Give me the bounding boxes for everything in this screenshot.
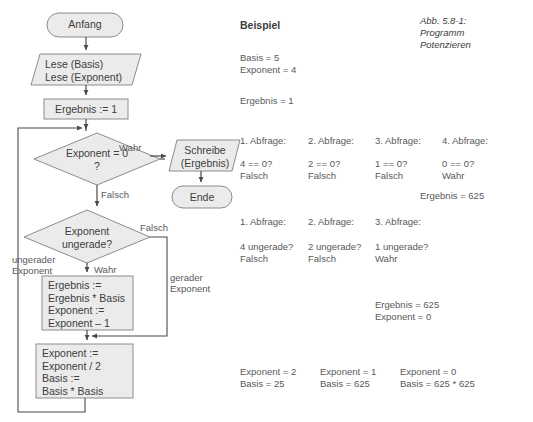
odd-query-test-3: 1 ungerade? Wahr xyxy=(375,241,428,265)
edge-label-odd-false: Falsch xyxy=(140,222,168,233)
zero-query-test-3: 1 == 0? Falsch xyxy=(375,158,407,182)
edge-label-even-branch: gerader Exponent xyxy=(170,272,210,294)
node-end-shape xyxy=(172,186,232,208)
example-mid-state: Ergebnis = 625 Exponent = 0 xyxy=(375,299,439,323)
zero-query-result: Ergebnis = 625 xyxy=(420,190,484,202)
example-final-state-1: Exponent = 2 Basis = 25 xyxy=(240,366,296,390)
example-initial-values: Basis = 5 Exponent = 4 xyxy=(240,52,296,76)
example-heading: Beispiel xyxy=(240,19,280,31)
node-write-shape xyxy=(169,140,240,171)
figure-caption: Abb. 5.8-1: Programm Potenzieren xyxy=(420,15,471,51)
node-halve-shape xyxy=(36,344,133,398)
node-read-shape xyxy=(31,54,141,85)
node-init-shape xyxy=(44,99,128,119)
zero-query-header-3: 3. Abfrage: xyxy=(375,135,421,147)
zero-query-test-1: 4 == 0? Falsch xyxy=(240,158,272,182)
odd-query-test-1: 4 ungerade? Falsch xyxy=(240,241,293,265)
odd-query-header-1: 1. Abfrage: xyxy=(240,216,286,228)
odd-query-header-2: 2. Abfrage: xyxy=(308,216,354,228)
edge-label-zero-true: Wahr xyxy=(119,142,141,153)
node-start-shape xyxy=(47,13,123,37)
node-odd-body-shape xyxy=(42,276,133,330)
zero-query-header-2: 2. Abfrage: xyxy=(308,135,354,147)
odd-query-header-3: 3. Abfrage: xyxy=(375,216,421,228)
zero-query-test-4: 0 == 0? Wahr xyxy=(442,158,474,182)
zero-query-header-1: 1. Abfrage: xyxy=(240,135,286,147)
edge-label-zero-false: Falsch xyxy=(101,189,129,200)
example-final-state-3: Exponent = 0 Basis = 625 * 625 xyxy=(400,366,475,390)
example-final-state-2: Exponent = 1 Basis = 625 xyxy=(320,366,376,390)
figure-page: Anfang Lese (Basis) Lese (Exponent) Erge… xyxy=(0,0,533,422)
edge-label-odd-true: Wahr xyxy=(94,264,116,275)
odd-query-test-2: 2 ungerade? Falsch xyxy=(308,241,361,265)
example-initial-result: Ergebnis = 1 xyxy=(240,95,294,107)
zero-query-header-4: 4. Abfrage: xyxy=(442,135,488,147)
edge-label-odd-branch: ungerader Exponent xyxy=(12,254,55,276)
zero-query-test-2: 2 == 0? Falsch xyxy=(308,158,340,182)
node-check-zero-shape xyxy=(34,133,160,185)
